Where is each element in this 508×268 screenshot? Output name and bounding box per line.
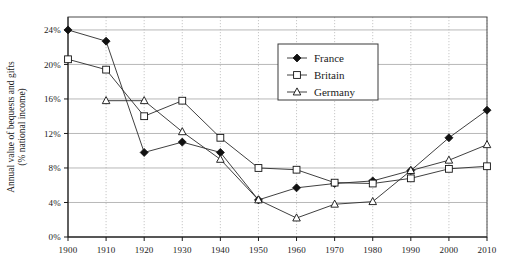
- legend-label-britain: Britain: [314, 69, 345, 81]
- x-tick-label: 1980: [363, 245, 382, 255]
- series-france-marker-diamond: [140, 148, 148, 156]
- series-germany-marker-triangle: [102, 97, 110, 104]
- x-tick-label: 1960: [287, 245, 306, 255]
- y-axis-title: Annual value of bequests and gifts(% nat…: [6, 61, 28, 193]
- series-britain-marker-square: [141, 113, 148, 120]
- x-tick-label: 1970: [325, 245, 344, 255]
- series-britain-marker-square: [446, 165, 453, 172]
- line-chart: 0%4%8%12%16%20%24%1900191019201930194019…: [0, 0, 508, 268]
- x-axis-ticks: 1900191019201930194019501960197019801990…: [59, 237, 497, 255]
- y-tick-label: 8%: [49, 163, 62, 173]
- chart-container: 0%4%8%12%16%20%24%1900191019201930194019…: [0, 0, 508, 268]
- series-britain-marker-square: [255, 165, 262, 172]
- y-axis-title-line1: Annual value of bequests and gifts: [6, 61, 16, 193]
- series-britain-marker-square: [331, 179, 338, 186]
- y-tick-label: 16%: [44, 94, 61, 104]
- series-france-marker-diamond: [293, 184, 301, 192]
- series-germany-marker-triangle: [445, 156, 453, 163]
- series-germany-marker-triangle: [140, 97, 148, 104]
- series-britain-marker-square: [407, 175, 414, 182]
- series-germany-marker-triangle: [369, 198, 377, 205]
- series-germany-marker-triangle: [179, 128, 187, 135]
- series-britain-marker-square: [65, 56, 72, 63]
- series-britain-marker-square: [369, 180, 376, 187]
- x-tick-label: 1940: [211, 245, 230, 255]
- y-tick-label: 4%: [49, 198, 62, 208]
- legend-label-germany: Germany: [314, 86, 355, 98]
- y-axis-title-line2: (% national income): [17, 88, 28, 166]
- series-britain-marker-square: [217, 134, 224, 141]
- series-france-marker-diamond: [483, 106, 491, 114]
- y-tick-label: 24%: [44, 25, 61, 35]
- x-tick-label: 1930: [173, 245, 192, 255]
- legend-label-france: France: [314, 52, 344, 64]
- x-tick-label: 2010: [478, 245, 497, 255]
- series-britain-marker-square: [293, 166, 300, 173]
- series-france-marker-diamond: [102, 37, 110, 45]
- x-tick-label: 1990: [401, 245, 420, 255]
- series-france-marker-diamond: [64, 26, 72, 34]
- x-tick-label: 1900: [59, 245, 78, 255]
- legend: FranceBritainGermany: [278, 44, 378, 100]
- x-tick-label: 1920: [135, 245, 154, 255]
- series-germany-marker-triangle: [483, 141, 491, 148]
- x-tick-label: 2000: [440, 245, 459, 255]
- series-britain-marker-square: [484, 163, 491, 170]
- legend-britain-marker-square: [294, 72, 301, 79]
- series-britain-marker-square: [103, 66, 110, 73]
- y-tick-label: 20%: [44, 60, 61, 70]
- series-france-marker-diamond: [178, 138, 186, 146]
- x-tick-label: 1950: [249, 245, 268, 255]
- y-tick-label: 12%: [44, 129, 61, 139]
- y-tick-label: 0%: [49, 232, 62, 242]
- series-britain-marker-square: [179, 97, 186, 104]
- x-tick-label: 1910: [97, 245, 116, 255]
